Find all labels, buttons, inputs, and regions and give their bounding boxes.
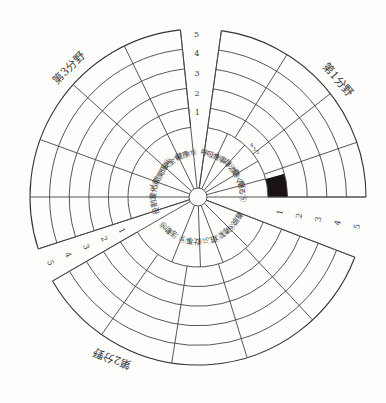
score-spoke-line [235, 55, 287, 138]
top-scale: 12345 [194, 30, 200, 117]
scale-tick-label: 4 [333, 220, 343, 227]
item-label-⑨: 仕事⑨ [178, 234, 201, 248]
score-ring-arc [69, 69, 184, 237]
scale-tick-label: 2 [195, 89, 200, 98]
score-spoke-line [246, 248, 313, 320]
left-scale: 12345 [45, 227, 127, 267]
score-spoke-line [180, 30, 190, 127]
score-ring-arc [86, 243, 318, 326]
radial-grid-svg: 呼吸①食事②排泄③動く④眠る⑤第1分野413着脱⑥清潔⑦遊ぶ⑧仕事⑨活動⑩第2分… [0, 0, 386, 403]
sector-2: 着脱⑥清潔⑦遊ぶ⑧仕事⑨活動⑩第2分野 [53, 200, 355, 372]
score-spoke-line [172, 266, 187, 363]
filled-score-cell [266, 174, 288, 197]
scale-tick-label: 3 [194, 69, 199, 78]
sector-title: 第1分野 [320, 60, 357, 99]
scale-tick-label: 1 [117, 227, 127, 235]
radial-assessment-diagram: 呼吸①食事②排泄③動く④眠る⑤第1分野413着脱⑥清潔⑦遊ぶ⑧仕事⑨活動⑩第2分… [0, 0, 386, 403]
scale-tick-label: 5 [352, 223, 362, 230]
annotation-number: 3 [256, 149, 260, 155]
filled-cells [266, 174, 288, 197]
scale-tick-label: 5 [45, 259, 55, 267]
center-circle [189, 188, 207, 206]
scale-tick-label: 3 [81, 243, 91, 251]
item-label-⑩: 活動⑩ [157, 219, 180, 241]
sector-3: 役割⑪変化⑫人間関係⑬安全⑭健康⑮第3分野 [30, 30, 198, 249]
scale-tick-label: 5 [194, 30, 199, 39]
score-spoke-line [264, 142, 357, 174]
score-spoke-line [124, 46, 167, 134]
score-spoke-line [208, 31, 222, 128]
score-spoke-line [253, 94, 330, 154]
right-scale: 12345 [275, 209, 362, 230]
scale-tick-label: 3 [314, 216, 324, 223]
scale-tick-label: 4 [63, 251, 73, 259]
sector-title: 第3分野 [50, 49, 88, 87]
item-spoke-line [131, 200, 189, 219]
scale-tick-label: 2 [99, 235, 109, 243]
score-ring-arc [108, 108, 188, 225]
item-label-⑤: 眠る⑤ [236, 180, 248, 203]
item-spoke-line [198, 206, 200, 267]
scale-tick-label: 1 [275, 209, 285, 216]
score-ring-arc [69, 250, 336, 345]
item-label-⑮: 健康⑮ [174, 146, 198, 162]
score-spoke-line [73, 85, 146, 151]
scale-tick-label: 1 [195, 108, 200, 117]
score-ring-arc [50, 49, 183, 242]
scale-tick-label: 4 [194, 49, 199, 58]
scale-tick-label: 2 [294, 212, 304, 219]
